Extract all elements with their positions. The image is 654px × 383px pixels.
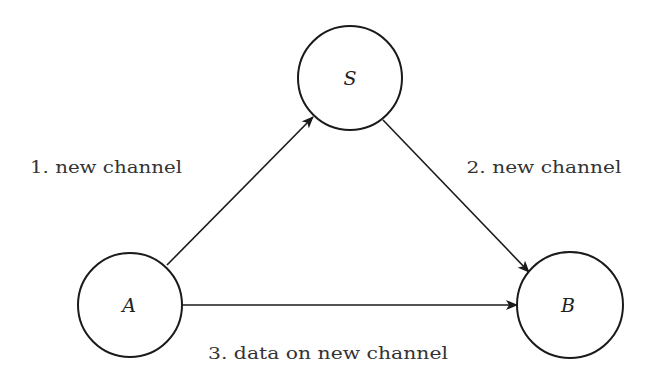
node-a-label: A	[120, 294, 136, 316]
node-s-label: S	[343, 67, 356, 89]
protocol-diagram: S A B 1. new channel 2. new channel 3. d…	[0, 0, 654, 383]
node-s: S	[298, 26, 402, 130]
edge-label-3: 3. data on new channel	[208, 343, 448, 363]
edge-a-to-s-arrow	[167, 117, 313, 265]
edge-s-to-b-arrow	[383, 120, 529, 272]
edge-label-2: 2. new channel	[467, 157, 622, 177]
node-b-label: B	[560, 294, 575, 316]
edge-label-1: 1. new channel	[30, 157, 182, 177]
node-b: B	[517, 252, 623, 358]
node-a: A	[78, 253, 182, 357]
